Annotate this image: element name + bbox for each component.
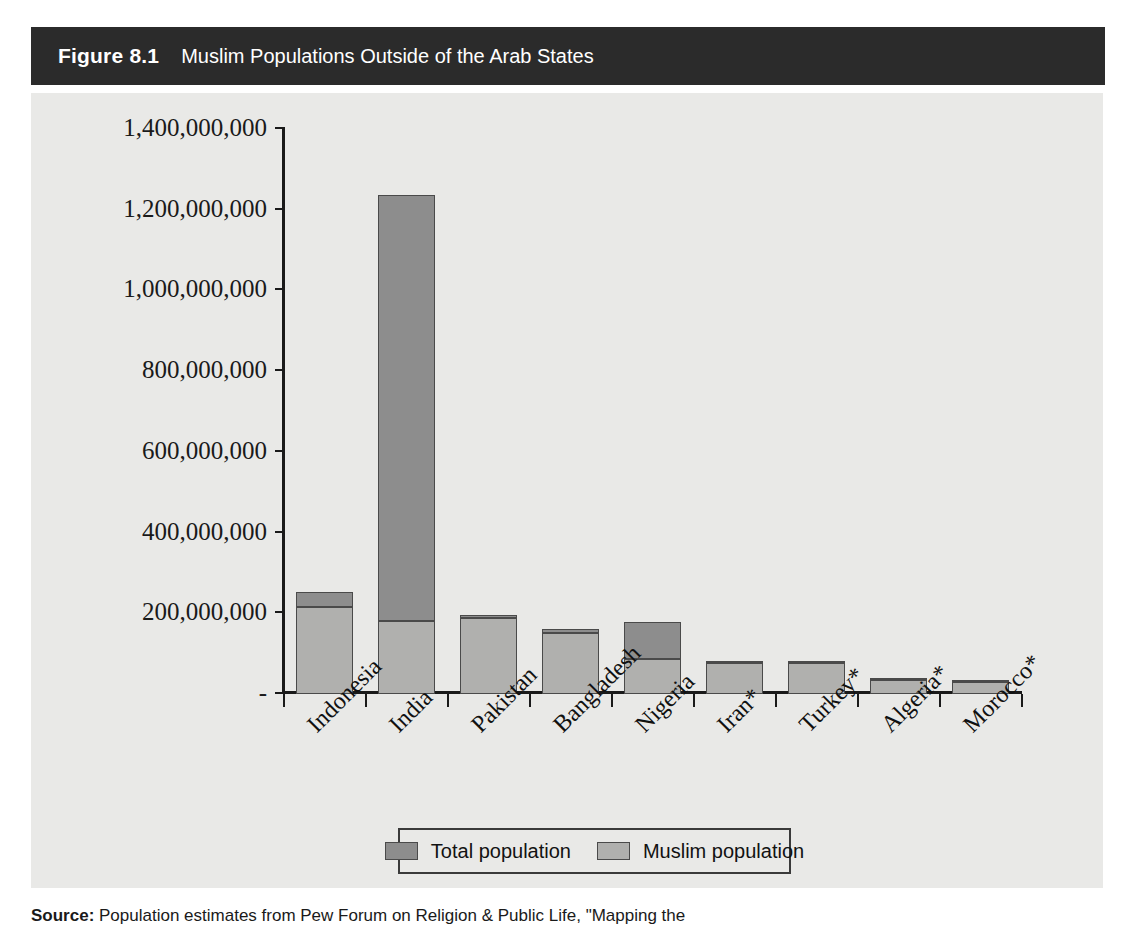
y-tick-mark — [275, 288, 284, 290]
y-tick-label: - — [259, 679, 267, 707]
x-tick-mark — [365, 694, 367, 707]
legend-swatch-icon — [597, 842, 630, 860]
x-tick-mark — [775, 694, 777, 707]
bar-group[interactable] — [378, 195, 435, 694]
bar-segment-total-population[interactable] — [296, 592, 353, 607]
y-tick-label: 1,000,000,000 — [123, 275, 267, 303]
bar-segment-total-population[interactable] — [378, 195, 435, 621]
y-tick-mark — [275, 611, 284, 613]
x-tick-mark — [857, 694, 859, 707]
x-tick-mark — [283, 694, 285, 707]
x-tick-mark — [693, 694, 695, 707]
legend-entry[interactable]: Muslim population — [597, 840, 804, 863]
x-tick-mark — [611, 694, 613, 707]
source-label: Source: — [31, 906, 94, 925]
x-tick-mark — [1021, 694, 1023, 707]
chart-legend: Total populationMuslim population — [398, 828, 791, 874]
y-tick-mark — [275, 450, 284, 452]
x-tick-mark — [447, 694, 449, 707]
legend-entry[interactable]: Total population — [385, 840, 571, 863]
figure-title-bar: Figure 8.1 Muslim Populations Outside of… — [31, 27, 1105, 85]
y-tick-label: 800,000,000 — [142, 356, 267, 384]
y-tick-label: 1,200,000,000 — [123, 195, 267, 223]
y-axis-line — [282, 127, 285, 694]
y-tick-label: 400,000,000 — [142, 518, 267, 546]
y-tick-mark — [275, 369, 284, 371]
y-tick-label: 600,000,000 — [142, 437, 267, 465]
source-note: Source: Population estimates from Pew Fo… — [31, 906, 685, 926]
legend-label: Total population — [431, 840, 571, 863]
source-text: Population estimates from Pew Forum on R… — [94, 906, 685, 925]
y-tick-mark — [275, 208, 284, 210]
x-tick-mark — [939, 694, 941, 707]
y-tick-label: 200,000,000 — [142, 598, 267, 626]
y-tick-mark — [275, 127, 284, 129]
chart-panel: 1,400,000,0001,200,000,0001,000,000,0008… — [31, 93, 1103, 888]
y-tick-mark — [275, 531, 284, 533]
plot-area: 1,400,000,0001,200,000,0001,000,000,0008… — [31, 93, 1103, 888]
legend-label: Muslim population — [643, 840, 804, 863]
figure-caption: Muslim Populations Outside of the Arab S… — [181, 45, 593, 68]
y-tick-label: 1,400,000,000 — [123, 114, 267, 142]
x-axis-label: Algeria* — [876, 660, 954, 738]
x-tick-mark — [529, 694, 531, 707]
legend-swatch-icon — [385, 842, 418, 860]
bar-segment-muslim-population[interactable] — [378, 621, 435, 694]
figure-number: Figure 8.1 — [58, 44, 159, 68]
